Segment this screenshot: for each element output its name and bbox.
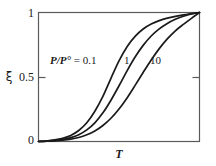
y-axis-label: ξ	[2, 71, 16, 83]
x-axis-label: T	[38, 148, 200, 160]
annotation-value: 0.1	[83, 54, 97, 66]
figure-chart: 1 0.5 0 ξ T P/P° = 0.1 1 10	[0, 0, 216, 166]
curve-group	[39, 13, 200, 142]
y-tick-label-top: 1	[18, 7, 34, 19]
annotation-series-1: 1	[124, 55, 130, 66]
curve-series-2	[39, 13, 200, 142]
annotation-equals: =	[71, 54, 83, 66]
annotation-pressure-ratio: P/P° = 0.1	[50, 55, 96, 66]
annotation-symbol: P/P°	[50, 54, 71, 66]
annotation-series-2: 10	[150, 55, 161, 66]
y-tick-label-bottom: 0	[18, 134, 34, 146]
